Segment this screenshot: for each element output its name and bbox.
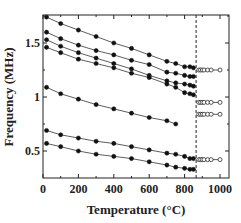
filled-circle-marker: [94, 34, 98, 38]
filled-circle-marker: [44, 141, 48, 145]
x-tick-label: 200: [69, 182, 87, 196]
y-tick-label: 1: [34, 90, 40, 104]
filled-circle-marker: [94, 56, 98, 60]
filled-circle-marker: [59, 44, 63, 48]
series-line: [47, 143, 194, 169]
filled-circle-marker: [129, 46, 133, 50]
frequency-vs-temperature-chart: 020040060080010000.511.5 Temperature (°C…: [0, 0, 241, 223]
filled-circle-marker: [112, 66, 116, 70]
series-line: [47, 47, 194, 95]
filled-circle-marker: [183, 91, 187, 95]
open-circle-marker: [209, 100, 213, 104]
series-line: [47, 87, 176, 124]
series-high-T-2: [197, 100, 222, 104]
filled-circle-marker: [129, 156, 133, 160]
open-circle-marker: [218, 158, 222, 162]
filled-circle-marker: [191, 167, 195, 171]
x-tick-label: 800: [176, 182, 194, 196]
open-circle-marker: [218, 68, 222, 72]
filled-circle-marker: [59, 92, 63, 96]
filled-circle-marker: [191, 74, 195, 78]
filled-circle-marker: [59, 51, 63, 55]
filled-circle-marker: [76, 57, 80, 61]
filled-circle-marker: [76, 136, 80, 140]
open-circle-marker: [209, 112, 213, 116]
filled-circle-marker: [174, 71, 178, 75]
open-circle-marker: [218, 100, 222, 104]
filled-circle-marker: [165, 151, 169, 155]
filled-circle-marker: [112, 41, 116, 45]
filled-circle-marker: [147, 75, 151, 79]
filled-circle-marker: [112, 154, 116, 158]
axes: 020040060080010000.511.5: [25, 15, 232, 196]
filled-circle-marker: [165, 59, 169, 63]
x-tick-label: 0: [40, 182, 46, 196]
filled-circle-marker: [191, 93, 195, 97]
series-line: [47, 17, 194, 68]
open-circle-marker: [218, 112, 222, 116]
filled-circle-marker: [174, 61, 178, 65]
filled-circle-marker: [44, 128, 48, 132]
series-line: [47, 130, 194, 158]
filled-circle-marker: [147, 148, 151, 152]
filled-circle-marker: [129, 145, 133, 149]
filled-circle-marker: [129, 58, 133, 62]
open-circle-marker: [209, 68, 213, 72]
x-tick-label: 1000: [208, 182, 232, 196]
series-line: [47, 40, 194, 86]
filled-circle-marker: [59, 37, 63, 41]
y-axis-label: Frequency (MHz): [1, 47, 16, 146]
filled-circle-marker: [174, 85, 178, 89]
filled-circle-marker: [94, 139, 98, 143]
filled-circle-marker: [59, 145, 63, 149]
filled-circle-marker: [44, 38, 48, 42]
filled-circle-marker: [112, 107, 116, 111]
filled-circle-marker: [191, 156, 195, 160]
filled-circle-marker: [165, 163, 169, 167]
open-circle-marker: [209, 158, 213, 162]
filled-circle-marker: [183, 166, 187, 170]
series-mode-1: [44, 15, 195, 70]
filled-circle-marker: [191, 66, 195, 70]
filled-circle-marker: [94, 48, 98, 52]
filled-circle-marker: [147, 63, 151, 67]
filled-circle-marker: [112, 53, 116, 57]
y-tick-label: 1.5: [25, 36, 40, 50]
filled-circle-marker: [165, 119, 169, 123]
x-tick-label: 600: [140, 182, 158, 196]
series-mode-4: [44, 45, 195, 97]
series-mode-2: [44, 30, 195, 78]
series-mode-6: [44, 128, 195, 160]
filled-circle-marker: [129, 67, 133, 71]
filled-circle-marker: [76, 149, 80, 153]
filled-circle-marker: [76, 43, 80, 47]
series-high-T-3: [197, 112, 222, 116]
filled-circle-marker: [174, 122, 178, 126]
filled-circle-marker: [147, 115, 151, 119]
filled-circle-marker: [183, 82, 187, 86]
x-tick-label: 400: [105, 182, 123, 196]
filled-circle-marker: [174, 81, 178, 85]
plot-area: [44, 15, 222, 178]
filled-circle-marker: [59, 133, 63, 137]
filled-circle-marker: [76, 51, 80, 55]
filled-circle-marker: [94, 102, 98, 106]
filled-circle-marker: [44, 30, 48, 34]
filled-circle-marker: [44, 45, 48, 49]
filled-circle-marker: [165, 82, 169, 86]
filled-circle-marker: [147, 53, 151, 57]
series-high-T-4: [197, 158, 222, 162]
filled-circle-marker: [147, 160, 151, 164]
filled-circle-marker: [174, 152, 178, 156]
series-mode-7: [44, 141, 195, 171]
filled-circle-marker: [59, 21, 63, 25]
filled-circle-marker: [191, 84, 195, 88]
filled-circle-marker: [129, 111, 133, 115]
series-mode-5: [44, 85, 177, 126]
series-high-T-1: [197, 68, 222, 72]
filled-circle-marker: [112, 141, 116, 145]
filled-circle-marker: [112, 61, 116, 65]
filled-circle-marker: [183, 73, 187, 77]
filled-circle-marker: [76, 28, 80, 32]
filled-circle-marker: [76, 97, 80, 101]
